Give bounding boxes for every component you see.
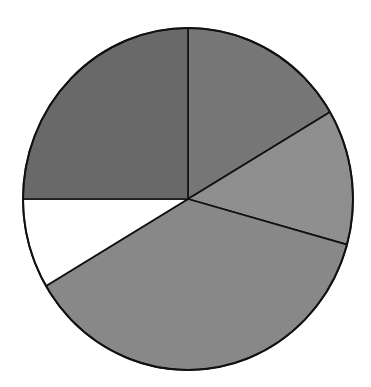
pie-chart (0, 0, 371, 387)
pie-slices (23, 28, 353, 370)
pie-slice-5-texture (23, 28, 188, 199)
